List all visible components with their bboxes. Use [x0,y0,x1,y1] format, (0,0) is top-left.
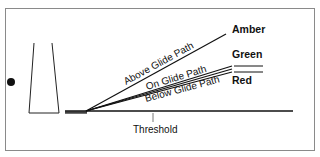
runway-perspective-icon [29,43,59,113]
glide-path-diagram: Above Glide Path On Glide Path Below Gli… [0,0,320,157]
threshold-label: Threshold [133,124,177,135]
green-label: Green [232,48,262,60]
light-source-dot [7,78,15,86]
amber-label: Amber [232,23,265,35]
red-label: Red [232,74,252,86]
